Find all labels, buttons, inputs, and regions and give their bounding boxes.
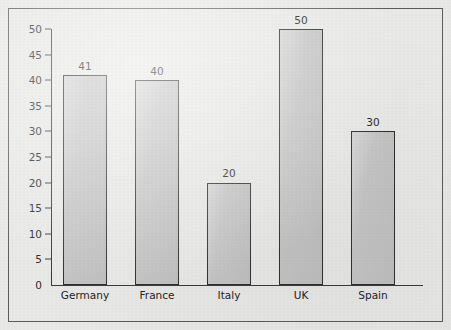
y-tick-mark bbox=[45, 233, 51, 234]
y-tick-label: 45 bbox=[29, 49, 42, 60]
x-axis-line bbox=[51, 285, 423, 286]
x-tick-label-spain: Spain bbox=[358, 290, 387, 301]
y-tick-mark bbox=[45, 182, 51, 183]
bar-italy[interactable] bbox=[207, 183, 251, 285]
y-tick-mark bbox=[45, 105, 51, 106]
y-tick-label: 40 bbox=[29, 75, 42, 86]
bar-value-label: 30 bbox=[366, 117, 379, 128]
bar-value-label: 50 bbox=[294, 15, 307, 26]
y-tick-label: 15 bbox=[29, 203, 42, 214]
plot-area: 50 45 40 35 30 25 20 15 10 5 0 bbox=[0, 0, 451, 330]
y-tick-mark bbox=[45, 54, 51, 55]
y-tick-label: 25 bbox=[29, 152, 42, 163]
x-tick-label-germany: Germany bbox=[61, 290, 109, 301]
y-tick-mark bbox=[45, 157, 51, 158]
bar-chart-figure: 50 45 40 35 30 25 20 15 10 5 0 bbox=[0, 0, 451, 330]
y-tick-label: 35 bbox=[29, 101, 42, 112]
x-tick-label-uk: UK bbox=[294, 290, 309, 301]
x-tick-label-italy: Italy bbox=[218, 290, 241, 301]
y-tick-label: 5 bbox=[35, 254, 42, 265]
y-tick-label: 30 bbox=[29, 126, 42, 137]
y-tick-label: 10 bbox=[29, 229, 42, 240]
y-axis-tick-labels: 50 45 40 35 30 25 20 15 10 5 0 bbox=[20, 0, 42, 330]
bar-france[interactable] bbox=[135, 80, 179, 285]
x-tick-label-france: France bbox=[140, 290, 175, 301]
y-tick-mark bbox=[45, 29, 51, 30]
y-axis-line bbox=[51, 29, 52, 285]
y-tick-label: 0 bbox=[35, 280, 42, 291]
y-tick-mark bbox=[45, 131, 51, 132]
bar-value-label: 40 bbox=[150, 66, 163, 77]
bar-value-label: 20 bbox=[222, 168, 235, 179]
y-tick-label: 50 bbox=[29, 24, 42, 35]
y-tick-mark bbox=[45, 259, 51, 260]
y-tick-mark bbox=[45, 208, 51, 209]
bar-spain[interactable] bbox=[351, 131, 395, 285]
bar-uk[interactable] bbox=[279, 29, 323, 285]
bar-germany[interactable] bbox=[63, 75, 107, 285]
y-tick-mark bbox=[45, 80, 51, 81]
bar-value-label: 41 bbox=[78, 61, 91, 72]
y-tick-label: 20 bbox=[29, 177, 42, 188]
